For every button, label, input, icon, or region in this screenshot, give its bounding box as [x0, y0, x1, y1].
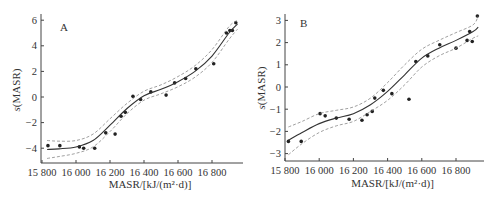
y-tick-label: −4 [26, 143, 38, 154]
y-tick-label: −2 [270, 126, 281, 137]
data-point [82, 146, 86, 150]
data-point [323, 114, 327, 118]
x-tick-label: 16 800 [198, 167, 227, 178]
x-axis-title: MASR/[kJ/(m²·d)] [109, 178, 192, 191]
x-tick-label: 16 200 [339, 165, 368, 176]
data-point [347, 117, 351, 121]
data-point [476, 14, 480, 18]
x-tick-label: 15 800 [271, 165, 300, 176]
x-tick-label: 15 800 [28, 167, 57, 178]
data-point [373, 96, 377, 100]
confidence-band-line [288, 16, 478, 127]
panel-label: B [300, 17, 307, 29]
data-point [58, 144, 62, 148]
y-tick-label: 0 [276, 82, 281, 93]
x-tick-label: 16 400 [130, 167, 159, 178]
x-axis-title: MASR/[kJ/(m²·d)] [351, 177, 434, 190]
fit-line [288, 27, 478, 140]
panel-label: A [60, 21, 68, 33]
figure: 6420−2−415 80016 00016 20016 40016 60016… [0, 0, 493, 203]
chart-panel-a: 6420−2−415 80016 00016 20016 40016 60016… [10, 14, 243, 191]
confidence-band-line [47, 20, 237, 141]
x-tick-label: 16 600 [407, 165, 436, 176]
y-tick-label: 0 [32, 92, 37, 103]
x-tick-label: 16 000 [305, 165, 334, 176]
data-point [113, 132, 117, 136]
y-tick-label: 3 [276, 15, 281, 26]
data-point [465, 39, 469, 43]
y-tick-label: −2 [26, 117, 37, 128]
data-point [360, 119, 364, 123]
y-tick-label: −3 [270, 148, 281, 159]
y-tick-label: 1 [276, 59, 281, 70]
data-point [470, 40, 474, 44]
y-tick-label: −1 [270, 104, 281, 115]
y-axis-title: s(MASR) [255, 66, 268, 109]
x-tick-label: 16 600 [164, 167, 193, 178]
data-point [438, 43, 442, 47]
data-point [365, 113, 369, 117]
x-tick-label: 16 800 [442, 165, 471, 176]
data-point [318, 112, 322, 116]
y-tick-label: 2 [276, 37, 281, 48]
data-point [46, 144, 50, 148]
data-point [164, 93, 168, 97]
data-point [390, 92, 394, 96]
confidence-band-line [47, 29, 237, 158]
y-tick-label: 2 [32, 66, 37, 77]
x-tick-label: 16 400 [373, 165, 402, 176]
data-point [299, 140, 303, 144]
fit-line [47, 24, 237, 149]
y-tick-label: 4 [32, 40, 38, 51]
data-point [407, 97, 411, 101]
x-tick-label: 16 200 [96, 167, 125, 178]
y-tick-label: 6 [32, 15, 37, 26]
x-tick-label: 16 000 [62, 167, 91, 178]
chart-panel-b: 3210−1−2−315 80016 00016 20016 40016 600… [255, 14, 484, 190]
data-point [382, 89, 386, 93]
y-axis-title: s(MASR) [10, 68, 23, 111]
